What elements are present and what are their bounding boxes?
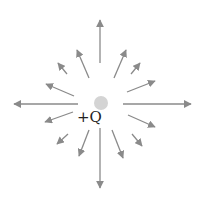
field-arrow <box>127 81 155 92</box>
field-arrow <box>132 134 142 146</box>
field-arrow <box>45 112 73 122</box>
field-arrow <box>46 84 74 96</box>
field-arrow <box>128 115 155 127</box>
field-arrow <box>57 134 68 144</box>
field-arrow <box>112 130 123 158</box>
field-diagram <box>0 0 207 205</box>
field-arrow <box>131 63 140 74</box>
charge-label: +Q <box>77 108 102 126</box>
field-arrow <box>58 63 67 74</box>
field-arrow <box>79 130 89 156</box>
field-arrow <box>114 50 126 78</box>
field-arrow <box>77 50 89 78</box>
